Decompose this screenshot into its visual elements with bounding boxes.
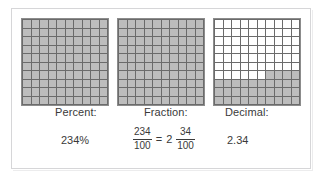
grid-cell	[145, 71, 153, 79]
grid-cell	[74, 54, 82, 62]
grid-cell	[49, 29, 57, 37]
grid-cell	[283, 71, 291, 79]
grid-cell	[232, 63, 240, 71]
grid-cell	[162, 88, 170, 96]
grid-cell	[83, 20, 91, 28]
grid-cell	[100, 80, 108, 88]
grid-cell	[179, 63, 187, 71]
hundredths-grid-partial-34	[214, 19, 300, 105]
grid-cell	[215, 63, 223, 71]
grid-cell	[292, 80, 300, 88]
grid-cell	[136, 97, 144, 105]
grid-cell	[83, 63, 91, 71]
grid-cell	[241, 20, 249, 28]
grid-cell	[23, 46, 31, 54]
grid-cell	[66, 71, 74, 79]
grid-cell	[83, 46, 91, 54]
grid-cell	[66, 80, 74, 88]
grid-cell	[40, 88, 48, 96]
fraction-improper: 234 100	[133, 127, 152, 151]
grid-cell	[187, 20, 195, 28]
grid-cell	[153, 29, 161, 37]
grid-cell	[57, 88, 65, 96]
grid-cell	[91, 71, 99, 79]
grid-cell	[145, 54, 153, 62]
grid-cell	[275, 29, 283, 37]
grid-cell	[162, 97, 170, 105]
value-percent: 234%	[61, 134, 89, 146]
grid-cell	[83, 37, 91, 45]
grid-cell	[32, 97, 40, 105]
grid-cell	[241, 46, 249, 54]
grid-cell	[292, 88, 300, 96]
grid-cell	[283, 54, 291, 62]
grid-cell	[162, 29, 170, 37]
labels-row: Percent: Fraction: Decimal:	[11, 106, 311, 126]
grid-cell	[74, 80, 82, 88]
grid-cell	[241, 97, 249, 105]
grid-cell	[187, 37, 195, 45]
grid-cell	[119, 54, 127, 62]
grid-cell	[249, 29, 257, 37]
fraction-mixed-numerator: 34	[179, 127, 192, 138]
grid-cell	[241, 29, 249, 37]
grid-cell	[215, 71, 223, 79]
grid-cell	[232, 20, 240, 28]
grid-cell	[100, 46, 108, 54]
grid-cell	[136, 88, 144, 96]
fraction-improper-numerator: 234	[133, 127, 152, 138]
grid-cell	[49, 37, 57, 45]
grid-cell-group-percent	[22, 19, 108, 105]
grid-cell	[145, 97, 153, 105]
grid-cell	[170, 46, 178, 54]
grid-cell	[275, 54, 283, 62]
grid-cell	[224, 63, 232, 71]
grid-cell	[224, 71, 232, 79]
grid-cell	[57, 29, 65, 37]
grid-cell	[23, 37, 31, 45]
grid-cell-group-fraction	[118, 19, 204, 105]
grid-cell	[241, 37, 249, 45]
grid-cell	[153, 97, 161, 105]
grid-cell	[162, 46, 170, 54]
grid-cell	[83, 88, 91, 96]
grid-cell	[91, 80, 99, 88]
grid-cell	[232, 97, 240, 105]
grid-cell	[215, 97, 223, 105]
value-fraction: 234 100 = 2 34 100	[133, 127, 195, 151]
grid-cell	[162, 20, 170, 28]
grid-cell	[215, 20, 223, 28]
grid-cell	[119, 37, 127, 45]
grid-cell	[40, 46, 48, 54]
grid-cell	[266, 37, 274, 45]
grid-cell	[32, 63, 40, 71]
grid-cell	[215, 80, 223, 88]
grid-cell	[258, 54, 266, 62]
grid-cell	[187, 46, 195, 54]
grid-cell	[40, 63, 48, 71]
grid-cell	[249, 54, 257, 62]
grid-cell	[283, 88, 291, 96]
grid-cell	[119, 46, 127, 54]
grid-cell	[162, 71, 170, 79]
grid-cell	[292, 71, 300, 79]
grid-cell	[91, 46, 99, 54]
grid-cell	[23, 20, 31, 28]
grid-cell	[283, 80, 291, 88]
values-row: 234% 234 100 = 2 34 100 2.34	[11, 126, 311, 160]
grid-cell	[83, 71, 91, 79]
grid-cell	[153, 71, 161, 79]
grid-cell	[232, 80, 240, 88]
grid-cell	[119, 63, 127, 71]
grid-cell	[57, 80, 65, 88]
grid-cell	[153, 46, 161, 54]
grid-cell	[40, 97, 48, 105]
grid-cell	[196, 88, 204, 96]
grid-cell	[241, 71, 249, 79]
grid-cell	[258, 37, 266, 45]
grid-cell	[57, 97, 65, 105]
hundredths-grid-full-2	[118, 19, 204, 105]
grid-cell	[249, 97, 257, 105]
grid-cell	[128, 97, 136, 105]
grid-cell	[23, 71, 31, 79]
